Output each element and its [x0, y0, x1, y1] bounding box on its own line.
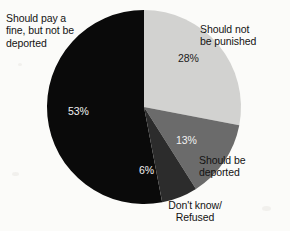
slice-label-should-be-deported: Should be deported	[199, 154, 287, 179]
slice-label-should-not-be-punished: Should not be punished	[200, 23, 288, 48]
paper-speck	[262, 206, 271, 211]
slice-value-should-be-deported: 13%	[176, 134, 197, 146]
pie-chart: Should pay a fine, but not be deported S…	[0, 0, 290, 231]
slice-value-should-not-be-punished: 28%	[178, 52, 199, 64]
slice-value-dont-know-refused: 6%	[139, 164, 154, 176]
paper-speck	[12, 172, 19, 176]
paper-speck	[18, 63, 22, 66]
slice-label-should-pay-fine: Should pay a fine, but not be deported	[6, 12, 102, 49]
slice-label-dont-know-refused: Don't know/ Refused	[141, 199, 249, 224]
slice-value-should-pay-fine: 53%	[68, 105, 89, 117]
